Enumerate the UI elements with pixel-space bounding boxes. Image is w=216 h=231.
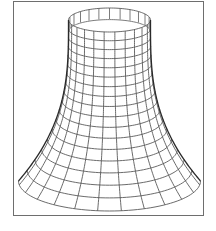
silhouette-right xyxy=(151,20,201,181)
mesh-ring xyxy=(66,82,154,97)
mesh-ring xyxy=(68,55,151,68)
mesh-ring xyxy=(68,37,150,49)
mesh-ring xyxy=(59,110,159,128)
mesh-ring xyxy=(68,29,150,41)
back-mesh-lines xyxy=(69,8,151,31)
wireframe-surface xyxy=(0,0,216,231)
mesh-ring xyxy=(27,170,191,198)
inner-ring xyxy=(69,20,150,31)
mesh-ring xyxy=(62,100,157,116)
mesh-ring xyxy=(68,64,152,77)
mesh-ring xyxy=(56,119,163,138)
mesh-ring xyxy=(67,73,153,87)
mesh-ring xyxy=(35,160,184,186)
silhouette-left xyxy=(19,20,69,181)
front-mesh-lines xyxy=(19,20,201,211)
mesh-ring xyxy=(64,91,155,106)
mesh-ring xyxy=(68,46,150,58)
